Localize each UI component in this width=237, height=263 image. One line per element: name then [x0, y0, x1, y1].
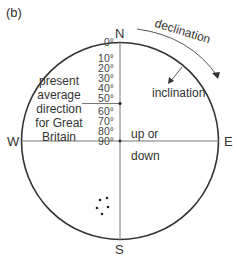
tick-90: 90°	[88, 136, 114, 147]
inclination-label: inclination	[152, 87, 205, 99]
present-direction-label: present average direction for Great Brit…	[34, 74, 84, 144]
declination-arrowhead-icon	[212, 72, 220, 79]
center-point	[119, 140, 122, 143]
up-or-label: up or	[131, 128, 158, 140]
north-label: N	[115, 27, 124, 40]
present-direction-point	[118, 102, 121, 105]
down-label: down	[131, 150, 160, 162]
tick-0: 0°	[88, 37, 114, 48]
west-label: W	[7, 135, 19, 148]
east-label: E	[224, 135, 233, 148]
data-points	[96, 197, 110, 216]
south-label: S	[115, 243, 124, 256]
tick-50: 50°	[88, 93, 114, 104]
panel-label: (b)	[6, 6, 22, 19]
